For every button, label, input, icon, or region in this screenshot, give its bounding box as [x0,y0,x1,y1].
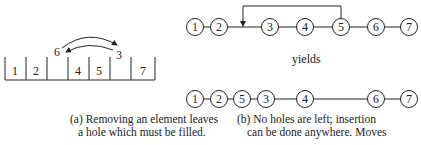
svg-text:3: 3 [263,92,269,106]
floating-label-6: 6 [54,45,60,59]
array-cell-7: 7 [140,64,146,78]
svg-text:4: 4 [302,92,308,106]
array-cell-2: 2 [33,64,39,78]
svg-text:2: 2 [216,20,222,34]
svg-text:7: 7 [406,92,412,106]
svg-text:6: 6 [373,20,379,34]
caption-a-line1: (a) Removing an element leaves [70,113,218,126]
svg-text:5: 5 [239,92,245,106]
svg-text:1: 1 [192,92,198,106]
svg-text:4: 4 [302,20,308,34]
svg-text:6: 6 [373,92,379,106]
array-cell-4: 4 [75,64,81,78]
caption-b-line1: (b) No holes are left; insertion [237,113,377,126]
yields-label: yields [292,52,321,67]
svg-text:1: 1 [192,20,198,34]
floating-label-3: 3 [116,48,122,62]
array-cell-5: 5 [96,64,102,78]
svg-text:3: 3 [267,20,273,34]
caption-a: (a) Removing an element leaves a hole wh… [70,113,218,139]
caption-b-line2: can be done anywhere. Moves [247,126,387,139]
arc-arrow-right [62,37,117,48]
caption-a-line2: a hole which must be filled. [78,126,226,139]
svg-text:2: 2 [216,92,222,106]
array-cell-1: 1 [12,64,18,78]
relink-arrow [243,6,341,26]
arc-arrow-left [66,45,113,52]
caption-b: (b) No holes are left; insertion can be … [237,113,377,139]
svg-text:7: 7 [406,20,412,34]
svg-text:5: 5 [338,20,344,34]
